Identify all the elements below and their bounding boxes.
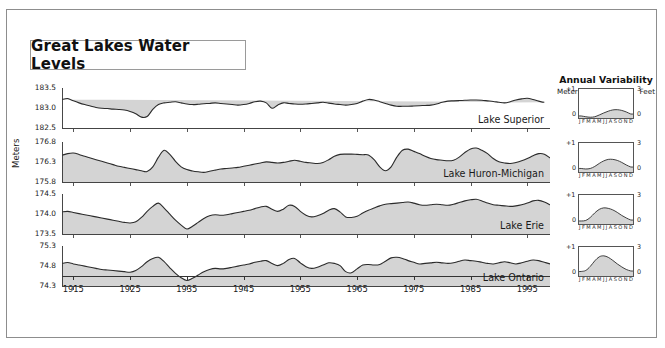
annual-variability-feet-label: Feet [640, 87, 655, 96]
variability-month-labels: JFMAMJJASOND [579, 224, 633, 230]
month-label: J [603, 118, 605, 124]
month-label: J [603, 224, 605, 230]
y-tick-label: 174.5 [22, 190, 56, 198]
month-label: F [582, 172, 585, 178]
month-label: S [614, 172, 617, 178]
variability-chart-lake-ontario: +1030JFMAMJJASOND [578, 246, 634, 282]
month-label: J [603, 276, 605, 282]
y-tick-label: 174.0 [22, 210, 56, 218]
panel-baseline [62, 286, 550, 287]
month-label: F [582, 118, 585, 124]
panel-lake-label: Lake Ontario [0, 272, 544, 283]
variability-axis-label: +1 [566, 191, 575, 199]
variability-axis-label: +1 [566, 139, 575, 147]
month-label: M [597, 172, 601, 178]
variability-axis-label: 3 [637, 243, 641, 251]
y-tick-label: 182.5 [22, 124, 56, 132]
month-label: O [618, 276, 622, 282]
month-label: J [606, 118, 608, 124]
panel-baseline [62, 182, 550, 183]
variability-chart-lake-huron-michigan: +1030JFMAMJJASOND [578, 142, 634, 178]
y-tick-label: 176.3 [22, 158, 56, 166]
month-label: M [597, 276, 601, 282]
variability-fill [579, 208, 633, 224]
month-label: M [586, 276, 590, 282]
month-label: J [606, 172, 608, 178]
y-tick-label: 173.5 [22, 230, 56, 238]
chart-page: Great Lakes Water Levels Meters 19151925… [0, 0, 665, 348]
month-label: J [606, 276, 608, 282]
y-tick-label: 74.8 [22, 262, 56, 270]
page-title: Great Lakes Water Levels [31, 37, 245, 73]
month-label: D [629, 172, 633, 178]
month-label: O [618, 224, 622, 230]
variability-month-labels: JFMAMJJASOND [579, 172, 633, 178]
month-label: N [624, 224, 628, 230]
month-label: A [609, 276, 613, 282]
variability-axis-label: 0 [637, 216, 641, 224]
variability-fill [579, 159, 633, 172]
y-tick-label: 176.8 [22, 138, 56, 146]
y-tick-label: 74.3 [22, 282, 56, 290]
month-label: A [592, 172, 596, 178]
variability-chart-lake-erie: +1030JFMAMJJASOND [578, 194, 634, 230]
month-label: J [606, 224, 608, 230]
panel-baseline [62, 128, 550, 129]
variability-axis-label: +1 [566, 85, 575, 93]
month-label: S [614, 224, 617, 230]
month-label: A [609, 118, 613, 124]
month-label: J [579, 276, 581, 282]
month-label: M [586, 118, 590, 124]
month-label: D [629, 276, 633, 282]
variability-area-plot [579, 89, 633, 118]
variability-axis-label: 3 [637, 85, 641, 93]
variability-axis-label: 0 [637, 164, 641, 172]
month-label: O [618, 172, 622, 178]
variability-month-labels: JFMAMJJASOND [579, 118, 633, 124]
month-label: M [586, 172, 590, 178]
variability-axis-label: 0 [572, 268, 576, 276]
variability-axis-label: 3 [637, 139, 641, 147]
month-label: N [624, 172, 628, 178]
variability-chart-lake-superior: +1030JFMAMJJASOND [578, 88, 634, 124]
variability-axis-label: +1 [566, 243, 575, 251]
variability-area-plot [579, 195, 633, 224]
month-label: N [624, 276, 628, 282]
y-tick-label: 183.0 [22, 104, 56, 112]
month-label: M [597, 118, 601, 124]
month-label: O [618, 118, 622, 124]
y-tick-label: 183.5 [22, 84, 56, 92]
month-label: F [582, 224, 585, 230]
variability-axis-label: 0 [572, 110, 576, 118]
variability-axis-label: 0 [637, 110, 641, 118]
y-axis-unit-label: Meters [11, 139, 21, 168]
variability-axis-label: 3 [637, 191, 641, 199]
month-label: J [579, 118, 581, 124]
y-tick-label: 75.3 [22, 242, 56, 250]
variability-axis-label: 0 [572, 216, 576, 224]
variability-month-labels: JFMAMJJASOND [579, 276, 633, 282]
panel-baseline [62, 234, 550, 235]
variability-area-plot [579, 143, 633, 172]
month-label: A [592, 224, 596, 230]
month-label: N [624, 118, 628, 124]
month-label: A [592, 118, 596, 124]
panel-lake-label: Lake Superior [0, 114, 544, 125]
annual-variability-section: Annual Variability Meters Feet +1030JFMA… [556, 74, 656, 294]
month-label: J [603, 172, 605, 178]
y-tick-label: 175.8 [22, 178, 56, 186]
month-label: S [614, 118, 617, 124]
month-label: A [592, 276, 596, 282]
chart-title-box: Great Lakes Water Levels [30, 40, 246, 70]
month-label: A [609, 224, 613, 230]
panel-lake-label: Lake Huron-Michigan [0, 168, 544, 179]
month-label: D [629, 224, 633, 230]
month-label: M [597, 224, 601, 230]
month-label: S [614, 276, 617, 282]
month-label: A [609, 172, 613, 178]
month-label: F [582, 276, 585, 282]
annual-variability-heading: Annual Variability [556, 74, 656, 85]
variability-fill [579, 256, 633, 276]
panel-lake-label: Lake Erie [0, 220, 544, 231]
month-label: J [579, 172, 581, 178]
